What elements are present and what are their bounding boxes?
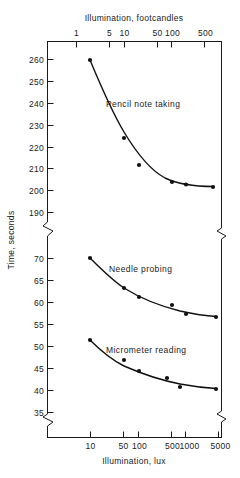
top-tick-label: 10 xyxy=(119,28,129,38)
y-tick-label: 65 xyxy=(34,276,44,286)
y-axis-title: Time, seconds xyxy=(6,211,16,270)
y-tick-label: 250 xyxy=(29,77,44,87)
chart-figure: Illumination, footcandles 1 5 10 50 100 … xyxy=(0,0,240,478)
data-point xyxy=(170,180,174,184)
data-point xyxy=(137,295,141,299)
data-point xyxy=(170,303,174,307)
y-tick-label: 220 xyxy=(29,143,44,153)
y-tick-label: 210 xyxy=(29,164,44,174)
data-point xyxy=(211,185,215,189)
data-point xyxy=(214,387,218,391)
y-tick-label: 200 xyxy=(29,186,44,196)
data-point xyxy=(122,136,126,140)
bottom-tick-label: 100 xyxy=(132,441,147,451)
bottom-tick-label: 10 xyxy=(85,441,95,451)
y-tick-label: 240 xyxy=(29,99,44,109)
data-point xyxy=(214,315,218,319)
data-point xyxy=(178,385,182,389)
bottom-tick-label: 500 xyxy=(165,441,180,451)
data-point xyxy=(184,312,188,316)
y-tick-label: 40 xyxy=(34,386,44,396)
y-tick-label: 60 xyxy=(34,298,44,308)
data-point xyxy=(122,358,126,362)
y-tick-label: 230 xyxy=(29,121,44,131)
y-tick-label: 190 xyxy=(29,208,44,218)
bottom-tick-label: 50 xyxy=(118,441,128,451)
data-point xyxy=(165,376,169,380)
top-tick-label: 100 xyxy=(165,28,180,38)
chart-background xyxy=(0,0,240,478)
series-label-micrometer: Micrometer reading xyxy=(106,345,186,355)
series-label-needle: Needle probing xyxy=(109,264,172,274)
data-point xyxy=(137,163,141,167)
data-point xyxy=(184,182,188,186)
bottom-tick-label: 5000 xyxy=(210,441,230,451)
y-tick-label: 260 xyxy=(29,55,44,65)
data-point xyxy=(88,338,92,342)
top-tick-label: 1 xyxy=(74,28,79,38)
top-axis-title: Illumination, footcandles xyxy=(85,13,184,23)
data-point xyxy=(122,286,126,290)
top-tick-label: 500 xyxy=(198,28,213,38)
data-point xyxy=(88,256,92,260)
data-point xyxy=(88,58,92,62)
bottom-tick-label: 1000 xyxy=(179,441,199,451)
y-tick-label: 70 xyxy=(34,254,44,264)
bottom-axis-title: Illumination, lux xyxy=(102,456,166,466)
data-point xyxy=(137,369,141,373)
top-tick-label: 50 xyxy=(152,28,162,38)
illumination-vs-time-chart: Illumination, footcandles 1 5 10 50 100 … xyxy=(0,0,240,478)
top-tick-label: 5 xyxy=(107,28,112,38)
y-tick-label: 55 xyxy=(34,320,44,330)
y-tick-label: 45 xyxy=(34,364,44,374)
y-tick-label: 50 xyxy=(34,342,44,352)
series-label-pencil: Pencil note taking xyxy=(106,99,180,109)
y-tick-label: 35 xyxy=(34,408,44,418)
